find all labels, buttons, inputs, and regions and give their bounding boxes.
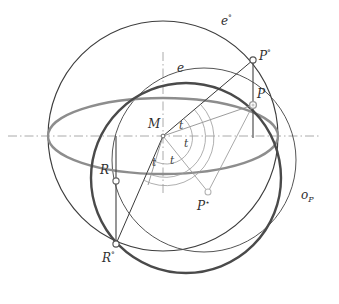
geometry-canvas bbox=[0, 0, 339, 304]
geometry-figure: e° e oP P° P P⋆ R R° M t t t t bbox=[0, 0, 339, 304]
label-M-base: M bbox=[148, 117, 160, 131]
label-angle-t-4: t bbox=[152, 157, 156, 168]
label-P-star: P⋆ bbox=[197, 199, 210, 212]
label-e-ellipse-base: e bbox=[177, 61, 184, 75]
marker-R-sphere bbox=[113, 241, 119, 247]
marker-R bbox=[113, 178, 119, 184]
label-angle-t-1: t bbox=[179, 120, 183, 131]
marker-P-inner bbox=[252, 104, 255, 107]
label-e-degree: e° bbox=[221, 14, 232, 27]
label-P-star-sup: ⋆ bbox=[205, 198, 210, 207]
label-M: M bbox=[148, 118, 160, 130]
label-P: P bbox=[257, 88, 265, 100]
label-P-degree-sup: ° bbox=[267, 48, 271, 57]
label-R-degree: R° bbox=[102, 251, 115, 264]
marker-P-sphere bbox=[250, 57, 256, 63]
marker-P-star bbox=[205, 189, 211, 195]
ray-M-to-Rsphere bbox=[116, 136, 163, 244]
label-angle-t-3: t bbox=[170, 155, 174, 166]
label-P-star-base: P bbox=[197, 199, 205, 213]
label-angle-t-2: t bbox=[184, 138, 188, 149]
label-R-base: R bbox=[100, 163, 109, 177]
label-R-degree-sup: ° bbox=[111, 250, 115, 259]
point-markers bbox=[113, 57, 257, 247]
label-R-degree-base: R bbox=[102, 251, 111, 265]
projection-segments bbox=[116, 60, 253, 244]
construction-rays bbox=[116, 60, 253, 244]
label-e-ellipse: e bbox=[177, 62, 184, 74]
label-o-P-sub: P bbox=[308, 195, 313, 204]
label-P-degree-base: P bbox=[259, 49, 267, 63]
label-P-degree: P° bbox=[259, 49, 271, 62]
label-P-base: P bbox=[257, 87, 265, 101]
label-o-P: oP bbox=[301, 189, 314, 204]
label-R: R bbox=[100, 164, 109, 176]
label-e-degree-sup: ° bbox=[228, 13, 232, 22]
marker-M bbox=[161, 134, 165, 138]
